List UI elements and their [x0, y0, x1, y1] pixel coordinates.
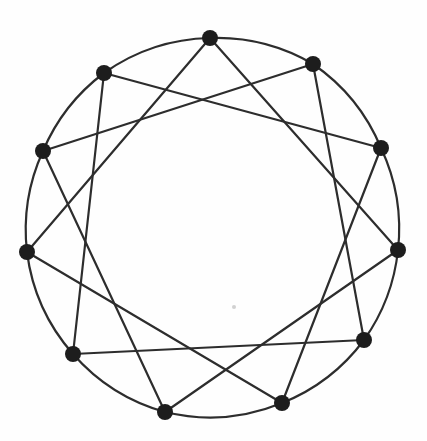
- scan-artifact-layer: [232, 305, 236, 309]
- scanned-page: [0, 0, 427, 441]
- graph-chord-edge: [27, 38, 210, 252]
- graph-node: [202, 30, 218, 46]
- graph-node: [157, 404, 173, 420]
- graph-chord-edge: [73, 340, 364, 354]
- graph-node: [96, 65, 112, 81]
- graph-node: [390, 242, 406, 258]
- circulant-graph-diagram: [0, 0, 427, 441]
- graph-chord-edge: [43, 151, 165, 412]
- graph-node: [35, 143, 51, 159]
- graph-node: [356, 332, 372, 348]
- graph-node: [19, 244, 35, 260]
- scan-speck: [232, 305, 236, 309]
- graph-node: [373, 140, 389, 156]
- graph-chord-edge: [27, 252, 282, 403]
- chord-edges-layer: [27, 38, 398, 412]
- graph-node: [305, 56, 321, 72]
- graph-node: [274, 395, 290, 411]
- graph-chord-edge: [73, 73, 104, 354]
- graph-chord-edge: [282, 148, 381, 403]
- graph-node: [65, 346, 81, 362]
